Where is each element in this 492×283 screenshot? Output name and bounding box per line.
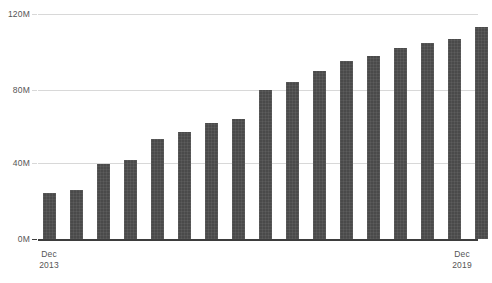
bar[interactable]	[286, 82, 299, 240]
bar-chart: 120M 80M 40M 0M Dec 2013 Dec 2019	[0, 0, 492, 283]
bar[interactable]	[448, 39, 461, 239]
y-axis-tick-mark	[32, 90, 37, 91]
bar[interactable]	[232, 119, 245, 239]
x-axis-tick-label-start-year: 2013	[27, 260, 71, 271]
x-axis-tick-label-end: Dec 2019	[440, 249, 484, 271]
plot-area	[38, 10, 478, 241]
y-axis-tick-mark	[32, 163, 37, 164]
bar[interactable]	[178, 132, 191, 239]
x-axis-tick-label-end-year: 2019	[440, 260, 484, 271]
bar[interactable]	[475, 27, 488, 239]
bar[interactable]	[394, 48, 407, 239]
bar[interactable]	[70, 190, 83, 239]
bar[interactable]	[43, 193, 56, 239]
bar[interactable]	[205, 123, 218, 239]
y-axis-tick-label-0m: 0M	[0, 235, 30, 244]
y-axis-tick-label-120m: 120M	[0, 10, 30, 19]
y-axis-tick-mark	[32, 14, 37, 15]
bar[interactable]	[124, 160, 137, 239]
bar[interactable]	[97, 164, 110, 239]
y-axis-tick-mark	[32, 239, 37, 240]
bar[interactable]	[340, 61, 353, 239]
y-axis-tick-label-80m: 80M	[0, 86, 30, 95]
x-axis-tick-label-start: Dec 2013	[27, 249, 71, 271]
x-axis-tick-label-end-month: Dec	[440, 249, 484, 260]
bar[interactable]	[367, 56, 380, 239]
bar[interactable]	[421, 43, 434, 239]
y-axis-tick-label-40m: 40M	[0, 159, 30, 168]
bar[interactable]	[151, 139, 164, 239]
x-axis-tick-label-start-month: Dec	[27, 249, 71, 260]
bar[interactable]	[313, 71, 326, 239]
bar-series	[38, 10, 478, 241]
bar[interactable]	[259, 90, 272, 239]
